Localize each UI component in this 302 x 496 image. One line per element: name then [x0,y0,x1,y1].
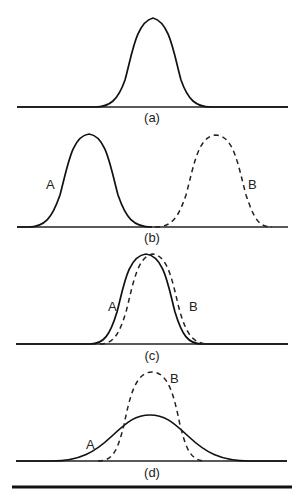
panel-c-label-a: A [108,299,117,314]
distribution-comparison-figure: (a) A B (b) A B (c) A B (d) [0,0,302,496]
panel-c-label-b: B [189,299,198,314]
panel-d: A B (d) [16,371,287,480]
panel-d-caption: (d) [144,465,160,480]
panel-a: (a) [17,18,288,125]
panel-c: A B (c) [16,254,288,363]
panel-c-curve-a [16,254,288,344]
panel-d-curve-a [16,415,287,461]
panel-d-curve-b [98,372,206,461]
panel-b-caption: (b) [144,230,160,245]
panel-d-label-a: A [86,437,95,452]
panel-b-label-a: A [46,177,55,192]
panel-b-curve-a [17,134,152,227]
panel-a-caption: (a) [144,110,160,125]
panel-a-bell-curve [17,18,288,107]
panel-b: A B (b) [17,134,288,245]
panel-b-label-b: B [248,177,257,192]
panel-d-label-b: B [170,371,179,386]
panel-c-caption: (c) [144,348,159,363]
